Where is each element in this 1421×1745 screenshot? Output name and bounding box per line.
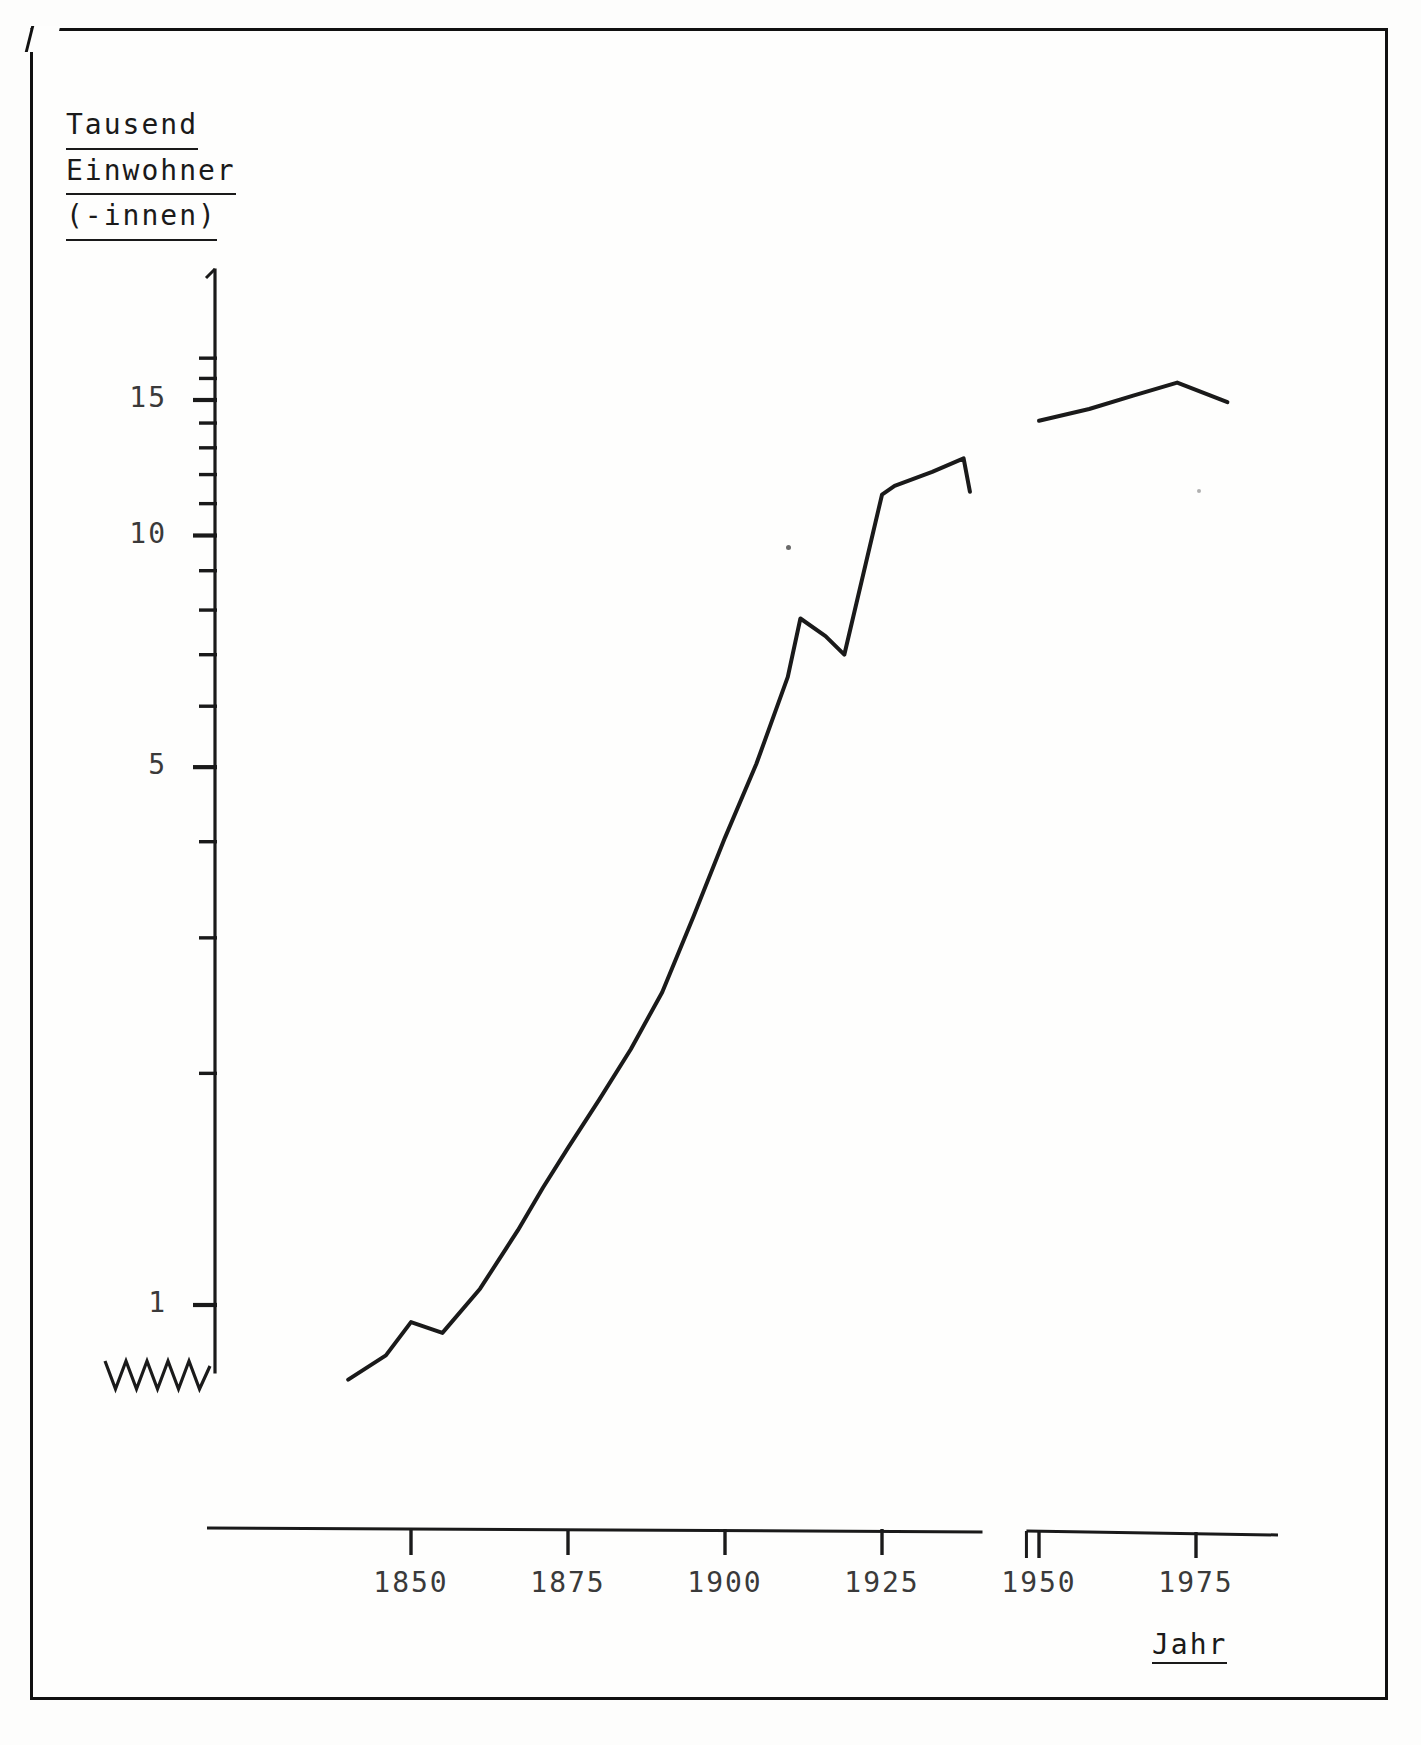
- x-tick-label: 1900: [665, 1566, 785, 1599]
- y-axis-title-line-3: (-innen): [66, 195, 217, 241]
- x-tick-label: 1850: [351, 1566, 471, 1599]
- x-tick-label: 1975: [1136, 1566, 1256, 1599]
- y-axis-title-line-1: Tausend: [66, 104, 198, 150]
- scan-speck: [786, 545, 791, 550]
- y-tick-label: 1: [97, 1286, 167, 1319]
- y-tick-label: 15: [97, 381, 167, 414]
- y-tick-label: 5: [97, 748, 167, 781]
- y-axis-title-line-2: Einwohner: [66, 150, 236, 196]
- scan-speck: [1197, 489, 1201, 493]
- y-axis-title: Tausend Einwohner (-innen): [66, 104, 236, 241]
- x-axis-title: Jahr: [1152, 1628, 1227, 1664]
- x-tick-label: 1925: [822, 1566, 942, 1599]
- x-tick-label: 1875: [508, 1566, 628, 1599]
- y-tick-label: 10: [97, 517, 167, 550]
- x-tick-label: 1950: [979, 1566, 1099, 1599]
- page-frame: [30, 28, 1388, 1700]
